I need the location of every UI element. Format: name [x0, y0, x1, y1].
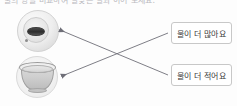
connector-lines — [0, 0, 237, 106]
answer-box-more-water[interactable]: 물이 더 많아요 — [171, 22, 232, 44]
connector-bowl-bottom-to-more-water[interactable] — [62, 33, 168, 76]
answer-label-less-water: 물이 더 적어요 — [177, 70, 226, 81]
worksheet-page: 물의 양을 비교하여 알맞은 말과 이어 보세요. 물이 더 많아요 물이 더 … — [0, 0, 237, 106]
answer-box-less-water[interactable]: 물이 더 적어요 — [171, 64, 232, 86]
answer-label-more-water: 물이 더 많아요 — [177, 28, 226, 39]
connector-bowl-top-to-less-water[interactable] — [60, 30, 168, 75]
